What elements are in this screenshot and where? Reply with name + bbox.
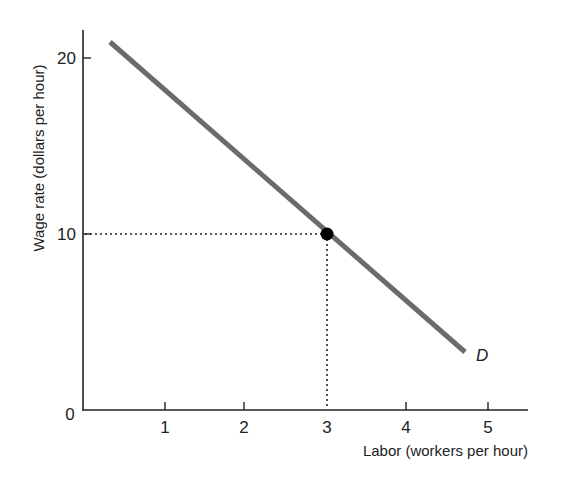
y-tick-label-20: 20 [57,49,76,68]
x-axis-label: Labor (workers per hour) [363,442,528,459]
y-tick-label-10: 10 [57,225,76,244]
x-tick-label-3: 3 [322,418,331,437]
demand-chart: 20 10 0 1 2 3 4 5 Labor (workers per hou… [0,0,561,482]
demand-curve [110,42,465,352]
highlight-point [321,228,334,241]
y-axis-label: Wage rate (dollars per hour) [30,64,47,251]
x-tick-label-5: 5 [483,418,492,437]
x-tick-label-4: 4 [401,418,410,437]
x-tick-label-1: 1 [160,418,169,437]
x-tick-label-2: 2 [239,418,248,437]
curve-label-d: D [476,346,488,365]
origin-label: 0 [65,405,74,424]
